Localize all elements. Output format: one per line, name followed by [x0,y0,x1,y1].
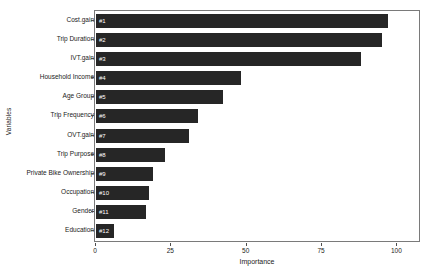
y-axis-tick-mark [91,173,94,174]
bar-rank-label: #6 [99,111,106,121]
bar [96,52,361,66]
y-axis-tick-label: Trip Frequency [0,108,99,122]
plot-panel: #1#2#3#4#5#6#7#8#9#10#11#12 [94,10,420,242]
y-axis-tick-mark [91,39,94,40]
bars-layer: #1#2#3#4#5#6#7#8#9#10#11#12 [95,11,419,241]
bar-row: #9 [96,167,153,181]
y-axis-tick-mark [91,135,94,136]
bar-row: #3 [96,52,361,66]
y-axis-tick-mark [91,230,94,231]
bar-row: #11 [96,205,146,219]
bar [96,33,382,47]
y-axis-tick-label: Occupation [0,185,99,199]
bar-rank-label: #1 [99,16,106,26]
x-axis-tick-label: 50 [242,247,249,254]
x-axis-tick-label: 75 [317,247,324,254]
y-axis-tick-label: Trip Duration [0,32,99,46]
y-axis-tick-mark [91,154,94,155]
bar-rank-label: #3 [99,54,106,64]
y-axis-tick-mark [91,58,94,59]
x-axis-tick-mark [170,243,171,246]
y-axis-tick-mark [91,96,94,97]
y-axis-tick-label: Education [0,223,99,237]
y-axis-tick-label: Private Bike Ownership [0,166,99,180]
bar [96,71,241,85]
y-axis-tick-label: OVT.gain [0,128,99,142]
bar-rank-label: #7 [99,131,106,141]
x-axis-tick-mark [246,243,247,246]
x-axis-tick-mark [321,243,322,246]
x-axis-tick-label: 100 [391,247,402,254]
y-axis-tick-label: Household Income [0,70,99,84]
bar [96,90,223,104]
bar-rank-label: #2 [99,35,106,45]
bar-rank-label: #8 [99,150,106,160]
bar-rank-label: #9 [99,169,106,179]
importance-bar-chart: Variables #1#2#3#4#5#6#7#8#9#10#11#12 Co… [0,0,439,276]
x-axis-title: Importance [94,258,420,265]
y-axis-tick-mark [91,20,94,21]
bar-row: #8 [96,148,165,162]
bar [96,109,198,123]
x-axis-tick-mark [95,243,96,246]
y-axis-tick-label: IVT.gain [0,51,99,65]
bar-rank-label: #12 [99,226,109,236]
y-axis-tick-mark [91,115,94,116]
bar-row: #7 [96,129,189,143]
y-axis-tick-label: Age Group [0,89,99,103]
y-axis-tick-mark [91,77,94,78]
y-axis-tick-label: Gender [0,204,99,218]
x-axis-tick-label: 0 [93,247,97,254]
bar-rank-label: #4 [99,73,106,83]
bar-row: #4 [96,71,241,85]
y-axis-tick-mark [91,192,94,193]
bar-rank-label: #11 [99,207,109,217]
bar [96,148,165,162]
x-axis-tick-label: 25 [167,247,174,254]
bar-rank-label: #5 [99,92,106,102]
y-axis-tick-label: Trip Purpose [0,147,99,161]
bar-row: #6 [96,109,198,123]
bar-row: #2 [96,33,382,47]
x-axis-tick-mark [396,243,397,246]
y-axis-tick-label: Cost.gain [0,13,99,27]
bar-row: #5 [96,90,223,104]
bar [96,14,388,28]
bar [96,129,189,143]
bar-rank-label: #10 [99,188,109,198]
y-axis-tick-mark [91,211,94,212]
bar-row: #10 [96,186,149,200]
bar-row: #1 [96,14,388,28]
